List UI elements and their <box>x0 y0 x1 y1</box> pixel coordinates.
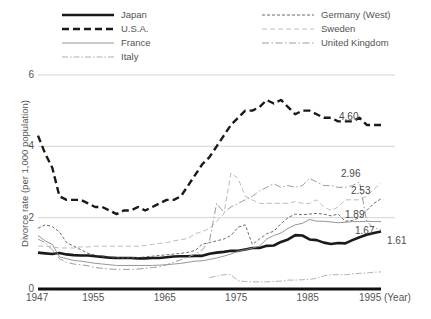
x-tick-label: 1947 <box>26 292 48 303</box>
x-tick-label: 1955 <box>82 292 104 303</box>
x-tick-label: 1995 (Year) <box>359 292 411 303</box>
series-end-value: 1.67 <box>355 226 374 236</box>
divorce-rate-line-chart: JapanU.S.A.FranceItaly Germany (West)Swe… <box>0 0 431 319</box>
legend-line-swatch <box>262 10 314 20</box>
series-end-value: 2.96 <box>341 169 360 179</box>
legend-column-left: JapanU.S.A.FranceItaly <box>62 8 151 64</box>
legend-line-swatch <box>262 24 314 34</box>
legend-item-united-kingdom[interactable]: United Kingdom <box>262 36 391 49</box>
legend-item-france[interactable]: France <box>62 36 151 49</box>
y-tick-label: 4 <box>20 141 34 151</box>
legend-item-label: Italy <box>121 51 138 62</box>
legend-column-right: Germany (West)SwedenUnited Kingdom <box>262 8 391 50</box>
legend-item-label: Germany (West) <box>321 9 391 20</box>
series-end-value: 2.53 <box>351 186 370 196</box>
legend-line-swatch <box>62 38 114 48</box>
legend-line-swatch <box>262 38 314 48</box>
legend-item-label: United Kingdom <box>321 37 389 48</box>
x-tick-label: 1985 <box>297 292 319 303</box>
chart-legend: JapanU.S.A.FranceItaly Germany (West)Swe… <box>0 8 431 64</box>
legend-item-label: Sweden <box>321 23 355 34</box>
legend-item-u-s-a[interactable]: U.S.A. <box>62 22 151 35</box>
series-end-value: 1.61 <box>387 236 406 246</box>
legend-item-sweden[interactable]: Sweden <box>262 22 391 35</box>
y-tick-label: 2 <box>20 213 34 223</box>
y-axis-ticks: 0246 <box>18 64 34 319</box>
y-tick-label: 6 <box>20 70 34 80</box>
plot-area: Divorce rate (per 1,000 population) 0246… <box>0 64 431 319</box>
legend-item-label: Japan <box>121 9 147 20</box>
legend-line-swatch <box>62 24 114 34</box>
series-end-value: 4.60 <box>339 112 358 122</box>
legend-line-swatch <box>62 10 114 20</box>
legend-item-germany-west[interactable]: Germany (West) <box>262 8 391 21</box>
legend-line-swatch <box>62 52 114 62</box>
x-tick-label: 1965 <box>154 292 176 303</box>
legend-item-label: U.S.A. <box>121 23 148 34</box>
legend-item-label: France <box>121 37 151 48</box>
x-tick-label: 1975 <box>225 292 247 303</box>
series-end-value: 1.89 <box>345 210 364 220</box>
legend-item-italy[interactable]: Italy <box>62 50 151 63</box>
legend-item-japan[interactable]: Japan <box>62 8 151 21</box>
